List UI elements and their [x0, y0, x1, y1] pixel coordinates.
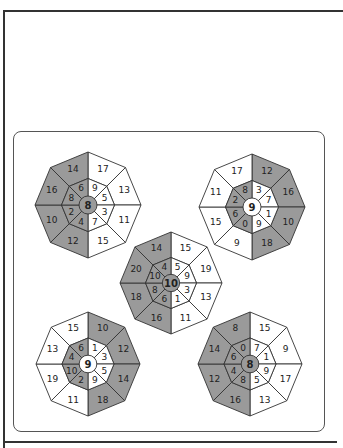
inner-number: 3 [102, 207, 108, 217]
outer-number: 13 [47, 344, 58, 354]
inner-number: 4 [78, 217, 84, 227]
outer-number: 16 [46, 185, 58, 195]
inner-number: 7 [92, 217, 98, 227]
outer-number: 18 [261, 238, 273, 248]
inner-number: 6 [78, 343, 84, 353]
outer-number: 20 [130, 264, 142, 274]
inner-number: 8 [152, 285, 158, 295]
inner-number: 9 [263, 366, 269, 376]
outer-number: 17 [231, 166, 242, 176]
inner-number: 9 [92, 375, 98, 385]
inner-number: 6 [78, 183, 84, 193]
inner-number: 5 [254, 375, 260, 385]
outer-number: 11 [210, 187, 221, 197]
inner-number: 2 [78, 375, 84, 385]
outer-number: 17 [97, 164, 108, 174]
outer-number: 16 [151, 313, 163, 323]
inner-number: 2 [232, 195, 238, 205]
outer-number: 15 [180, 243, 191, 253]
inner-number: 0 [240, 343, 246, 353]
center-number: 9 [85, 359, 92, 370]
inner-number: 6 [161, 294, 167, 304]
outer-number: 9 [283, 344, 289, 354]
outer-number: 18 [130, 292, 142, 302]
center-number: 8 [247, 359, 254, 370]
outer-number: 14 [151, 243, 163, 253]
outer-number: 12 [209, 374, 220, 384]
center-number: 8 [85, 200, 92, 211]
outer-number: 15 [97, 236, 108, 246]
inner-number: 3 [256, 185, 262, 195]
outer-number: 12 [67, 236, 78, 246]
inner-number: 3 [184, 285, 190, 295]
inner-number: 5 [175, 262, 181, 272]
center-number: 9 [249, 202, 256, 213]
outer-number: 14 [209, 344, 221, 354]
outer-number: 10 [283, 217, 295, 227]
inner-number: 0 [242, 219, 248, 229]
octagon-puzzle-top-right: 123167101189901561121789 [199, 154, 305, 260]
inner-number: 1 [263, 352, 269, 362]
inner-number: 8 [68, 193, 74, 203]
outer-number: 16 [283, 187, 295, 197]
inner-number: 8 [242, 185, 248, 195]
outer-number: 15 [68, 323, 79, 333]
inner-number: 6 [232, 209, 238, 219]
inner-number: 3 [101, 352, 107, 362]
inner-number: 4 [69, 352, 75, 362]
inner-number: 7 [254, 343, 260, 353]
inner-number: 1 [266, 209, 272, 219]
inner-number: 10 [149, 271, 161, 281]
outer-number: 10 [97, 323, 109, 333]
outer-number: 15 [259, 323, 270, 333]
outer-number: 8 [232, 323, 238, 333]
inner-number: 2 [68, 207, 74, 217]
outer-number: 17 [280, 374, 291, 384]
outer-number: 19 [200, 264, 212, 274]
outer-number: 10 [46, 215, 58, 225]
inner-number: 9 [184, 271, 190, 281]
outer-number: 11 [68, 395, 79, 405]
outer-number: 14 [118, 374, 130, 384]
inner-number: 6 [231, 352, 237, 362]
outer-number: 13 [259, 395, 270, 405]
outer-number: 12 [118, 344, 129, 354]
outer-number: 16 [230, 395, 242, 405]
outer-number: 18 [97, 395, 109, 405]
octagon-puzzle-bottom-left: 10112314518911219101341569 [36, 312, 140, 416]
outer-number: 14 [67, 164, 79, 174]
inner-number: 10 [66, 366, 78, 376]
inner-number: 1 [175, 294, 181, 304]
outer-number: 11 [180, 313, 191, 323]
octagon-puzzle-top-left: 1791351131571241021681468 [35, 152, 141, 258]
octagon-puzzle-center: 155199133111166188201014410 [120, 232, 222, 334]
outer-number: 11 [119, 215, 130, 225]
octagon-puzzle-bottom-right: 15791179135168124146808 [198, 312, 302, 416]
outer-number: 13 [119, 185, 130, 195]
inner-number: 4 [161, 262, 167, 272]
inner-number: 7 [266, 195, 272, 205]
outer-number: 12 [261, 166, 272, 176]
outer-number: 15 [210, 217, 221, 227]
outer-number: 19 [47, 374, 59, 384]
inner-number: 9 [92, 183, 98, 193]
outer-number: 9 [234, 238, 240, 248]
center-number: 10 [164, 278, 178, 289]
inner-number: 5 [101, 366, 107, 376]
inner-number: 5 [102, 193, 108, 203]
outer-number: 13 [200, 292, 211, 302]
inner-number: 1 [92, 343, 98, 353]
inner-number: 8 [240, 375, 246, 385]
inner-number: 9 [256, 219, 262, 229]
inner-number: 4 [231, 366, 237, 376]
